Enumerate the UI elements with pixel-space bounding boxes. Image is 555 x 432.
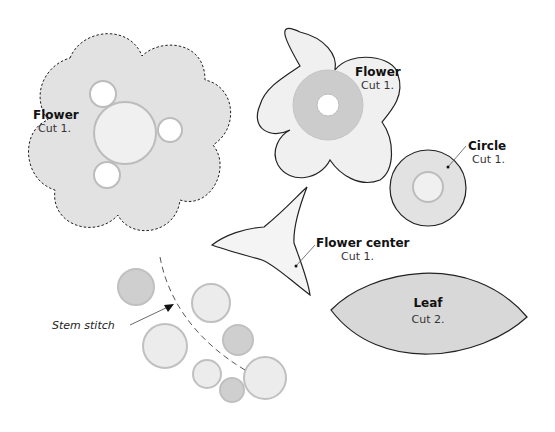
- flower-center-outline: [212, 187, 310, 295]
- flower-small-instruction: Cut 1.: [361, 79, 394, 92]
- flower-small-piece: Flower Cut 1.: [257, 28, 400, 182]
- berry-dark: [118, 269, 154, 305]
- circle-title: Circle: [468, 139, 506, 153]
- berry-light: [192, 284, 230, 322]
- berry-light: [244, 357, 286, 399]
- stem-stitch-label: Stem stitch: [52, 319, 115, 332]
- berry-dark: [223, 325, 253, 355]
- berry-dark: [220, 378, 244, 402]
- flower-small-title: Flower: [355, 65, 401, 79]
- flower-center-leader-dot: [295, 265, 298, 268]
- circle-piece: Circle Cut 1.: [390, 139, 506, 226]
- flower-large-instruction: Cut 1.: [38, 122, 71, 135]
- pattern-sheet: Flower Cut 1. Flower Cut 1. Circle Cut 1…: [0, 0, 555, 432]
- flower-large-piece: Flower Cut 1.: [29, 34, 231, 231]
- flower-center-instruction: Cut 1.: [341, 250, 374, 263]
- berry-light: [143, 324, 187, 368]
- berry-circles: [118, 269, 286, 402]
- leaf-title: Leaf: [413, 296, 443, 310]
- leaf-piece: Leaf Cut 2.: [331, 273, 527, 354]
- center-hole: [317, 94, 339, 116]
- dot-circle: [94, 162, 120, 188]
- berry-light: [193, 360, 221, 388]
- dot-circle: [90, 81, 116, 107]
- dot-circle: [158, 118, 182, 142]
- flower-large-title: Flower: [33, 108, 79, 122]
- circle-leader-dot: [447, 166, 450, 169]
- stem-stitch-arrow-line: [130, 306, 170, 325]
- center-circle: [94, 102, 156, 164]
- flower-center-title: Flower center: [316, 236, 410, 250]
- circle-inner-ring: [413, 172, 443, 202]
- circle-instruction: Cut 1.: [472, 153, 505, 166]
- leaf-instruction: Cut 2.: [412, 313, 445, 326]
- flower-center-piece: Flower center Cut 1.: [212, 187, 410, 295]
